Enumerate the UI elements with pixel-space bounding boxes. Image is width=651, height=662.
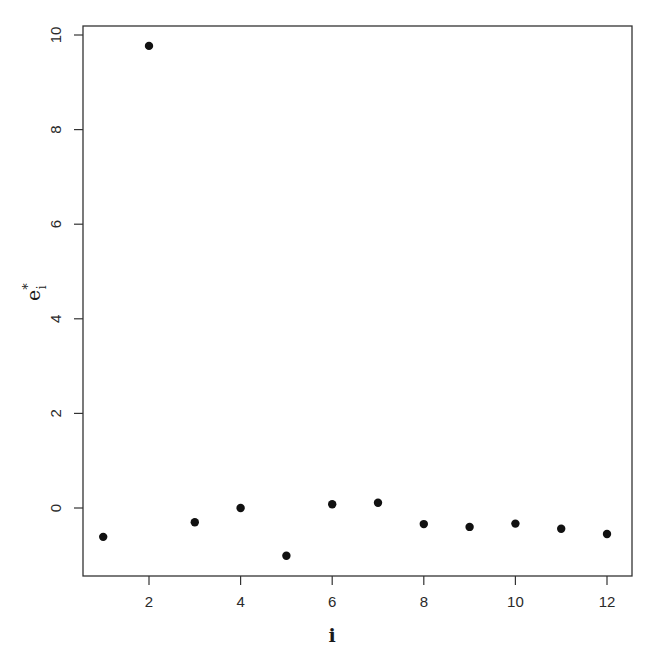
y-tick-label: 8 xyxy=(47,125,64,133)
data-point xyxy=(145,42,153,50)
y-tick-label: 4 xyxy=(47,315,64,323)
y-axis-title-sup: * xyxy=(20,283,35,290)
x-tick-label: 6 xyxy=(328,593,336,610)
x-tick-label: 12 xyxy=(599,593,616,610)
svg-text:e*i: e*i xyxy=(20,283,49,301)
data-point xyxy=(282,552,290,560)
data-point xyxy=(191,518,199,526)
plot-frame xyxy=(83,26,632,576)
data-point xyxy=(603,530,611,538)
x-axis-title: i xyxy=(329,624,336,646)
data-point xyxy=(511,519,519,527)
data-point xyxy=(99,533,107,541)
y-tick-label: 6 xyxy=(47,220,64,228)
data-point xyxy=(420,520,428,528)
y-axis-title-sub: i xyxy=(35,285,49,289)
x-tick-label: 8 xyxy=(420,593,428,610)
data-point xyxy=(374,499,382,507)
data-point xyxy=(236,504,244,512)
x-axis: 24681012 xyxy=(145,576,616,610)
scatter-plot: 24681012 0246810 i e*i xyxy=(0,0,651,662)
y-axis: 0246810 xyxy=(47,27,83,513)
data-point xyxy=(328,500,336,508)
data-points xyxy=(99,42,611,560)
y-axis-title-main: e xyxy=(22,290,44,301)
y-tick-label: 2 xyxy=(47,409,64,417)
y-axis-title: e*i xyxy=(20,283,49,301)
y-tick-label: 0 xyxy=(47,504,64,512)
x-tick-label: 2 xyxy=(145,593,153,610)
data-point xyxy=(465,523,473,531)
x-tick-label: 10 xyxy=(507,593,524,610)
x-tick-label: 4 xyxy=(236,593,244,610)
y-tick-label: 10 xyxy=(47,27,64,44)
data-point xyxy=(557,525,565,533)
